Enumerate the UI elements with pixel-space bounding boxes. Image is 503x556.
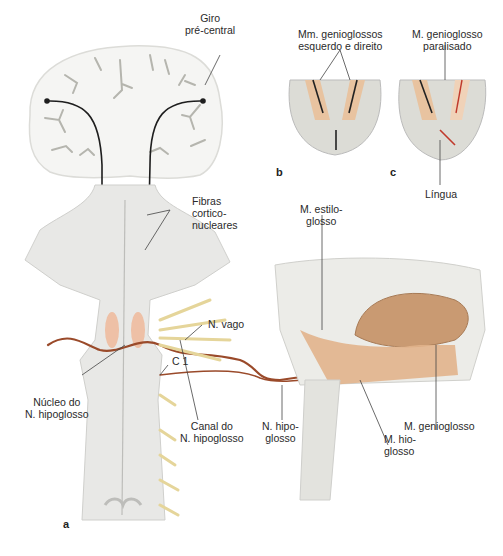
label-giro-pre-central: Giro pré-central: [185, 12, 235, 36]
label-lingua: Língua: [425, 188, 457, 200]
label-m-estiloglosso: M. estilo- glosso: [300, 203, 343, 227]
panel-letter-c: c: [390, 166, 396, 178]
tongue-panel-b: [289, 80, 381, 155]
brainstem: [25, 185, 230, 520]
label-m-genioglosso-paralisado: M. genioglosso paralisado: [412, 28, 483, 52]
label-n-hipoglosso: N. hipo- glosso: [262, 420, 299, 444]
label-mm-genioglossos: Mm. genioglossos esquerdo e direito: [298, 28, 383, 52]
brain-coronal-section: [29, 46, 222, 178]
panel-letter-b: b: [276, 166, 283, 178]
label-n-vago: N. vago: [208, 318, 244, 330]
tongue-panel-c: [399, 80, 486, 160]
panel-letter-a: a: [63, 518, 69, 530]
anatomy-illustration: [0, 0, 503, 556]
label-m-hioglosso: M. hio- glosso: [384, 433, 416, 457]
label-canal-n-hipoglosso: Canal do N. hipoglosso: [180, 420, 244, 444]
label-m-genioglosso: M. genioglosso: [404, 420, 475, 432]
label-c1: C 1: [172, 355, 188, 367]
label-fibras-corticonucleares: Fibras cortico- nucleares: [192, 195, 238, 231]
tongue-lateral-view: [275, 258, 485, 500]
label-nucleo-n-hipoglosso: Núcleo do N. hipoglosso: [25, 396, 89, 420]
